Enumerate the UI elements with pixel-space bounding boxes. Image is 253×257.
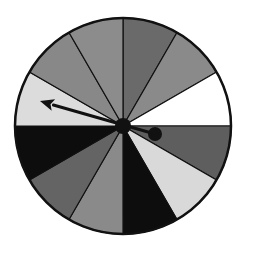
spinner-center-hub: [115, 118, 131, 134]
spinner-wheel: [0, 0, 253, 257]
pointer-tail-ball: [148, 127, 162, 141]
